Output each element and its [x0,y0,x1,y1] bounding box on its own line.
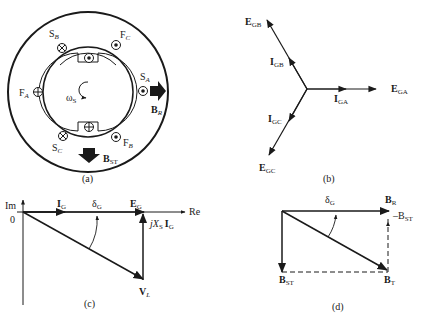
rotor-conductor-cross-icon [85,123,94,132]
stator-conductor-fa-cross-icon [34,88,43,97]
label-jxs-ig: jXSIG [148,218,174,231]
label-igb: IGB [270,56,284,69]
label-sb: SB [49,28,60,41]
caption-c: (c) [84,298,95,310]
label-ega: EGA [391,83,408,96]
angle-arc-delta [89,216,97,249]
stator-conductor-sb-cross-icon [58,44,67,53]
label-delta-c: δG [92,198,102,211]
caption-b: (b) [323,173,335,185]
label-vl: VL [139,286,150,299]
rotor-conductor-dot-icon [85,54,94,63]
vector-vl [23,212,143,279]
label-eg: EG [130,198,142,211]
panel-a-machine-cross-section: SB FC SA FA SC FB BR BST ωS (a) [8,12,168,185]
label-fa: FA [19,87,30,100]
caption-d: (d) [332,301,344,313]
label-sa: SA [140,71,151,84]
label-egc: EGC [259,162,276,175]
label-omega: ωS [66,92,77,105]
vector-igc [289,89,307,121]
label-egb: EGB [245,16,262,29]
stator-field-arrow-icon [78,148,100,163]
label-ig: IG [57,198,66,211]
panel-b-phasor-star: EGB IGB EGA IGA IGC EGC (b) [245,16,408,185]
label-bst-d: BST [279,274,295,287]
label-fc: FC [120,29,131,42]
label-delta-d: δG [325,194,335,207]
label-iga: IGA [334,93,348,106]
label-minus-bst: –BST [392,210,414,223]
label-igc: IGC [268,113,282,126]
label-sc: SC [52,142,63,155]
figure-canvas: SB FC SA FA SC FB BR BST ωS (a) EGB IGB … [0,0,423,315]
minus-bst-arrow-icon [386,222,390,226]
label-br: BR [151,104,163,117]
vector-bt [282,211,387,270]
label-bt: BT [384,274,396,287]
vector-igb [289,58,307,89]
stator-conductor-fb-dot-icon [112,133,121,142]
stator-conductor-sa-dot-icon [139,87,148,96]
label-origin: 0 [10,214,15,225]
rotation-arrow-icon [79,82,88,98]
rotor-field-arrow-icon [150,81,166,101]
panel-c-voltage-phasor: Im Re 0 IG δG EG jXSIG VL (c) [5,198,201,310]
rotor-body-right [98,53,137,131]
stator-conductor-fc-dot-icon [112,41,121,50]
caption-a: (a) [82,173,93,185]
label-br-d: BR [385,194,397,207]
label-fb: FB [123,137,134,150]
stator-conductor-sc-cross-icon [59,132,68,141]
label-im: Im [5,200,16,211]
panel-d-field-diagram: δG BR –BST BST BT (d) [279,194,414,313]
angle-arc-delta-d [328,215,336,237]
label-re: Re [189,206,201,217]
label-bst: BST [103,153,119,166]
